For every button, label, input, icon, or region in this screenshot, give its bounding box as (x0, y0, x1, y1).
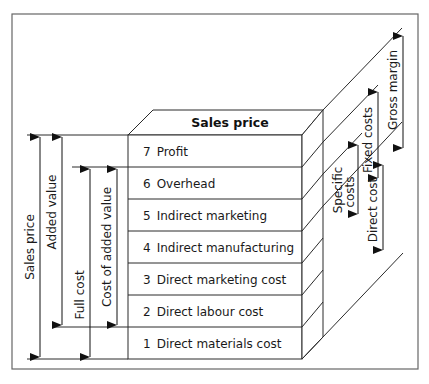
added-value-label: Added value (45, 175, 59, 250)
layer-7: 7Profit (143, 145, 188, 159)
full-cost-label: Full cost (73, 270, 87, 320)
layer-1: 1Direct materials cost (143, 337, 282, 351)
layer-2: 2Direct labour cost (143, 305, 264, 319)
cost-of-added-value-label: Cost of added value (100, 187, 114, 307)
layer-4: 4Indirect manufacturing (143, 241, 294, 255)
fixed-costs-label: Fixed costs (361, 107, 375, 173)
layer-5: 5Indirect marketing (143, 209, 267, 223)
direct-cost-label: Direct cost (366, 177, 380, 242)
specific-costs-label-line2: costs (343, 176, 357, 207)
sales-price-label: Sales price (23, 214, 37, 280)
cost-structure-diagram: Sales price 7Profit 6Overhead 5Indirect … (0, 0, 429, 384)
gross-margin-label: Gross margin (386, 50, 400, 130)
box-right-face (302, 110, 323, 359)
top-label: Sales price (191, 115, 268, 130)
layer-3: 3Direct marketing cost (143, 273, 287, 287)
